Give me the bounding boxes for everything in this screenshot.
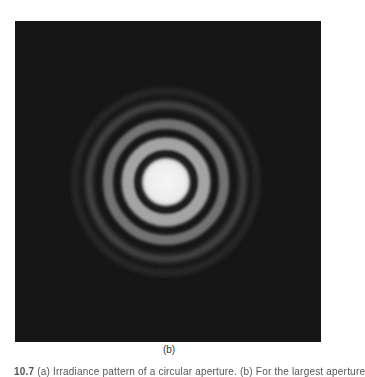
figure-caption: 10.7 (a) Irradiance pattern of a circula…: [14, 366, 344, 377]
airy-diffraction-image: [15, 21, 321, 342]
figure-number: 10.7: [14, 366, 34, 377]
caption-text: (a) Irradiance pattern of a circular ape…: [37, 366, 365, 377]
panel-label: (b): [0, 344, 338, 355]
airy-pattern-figure: [15, 21, 321, 342]
